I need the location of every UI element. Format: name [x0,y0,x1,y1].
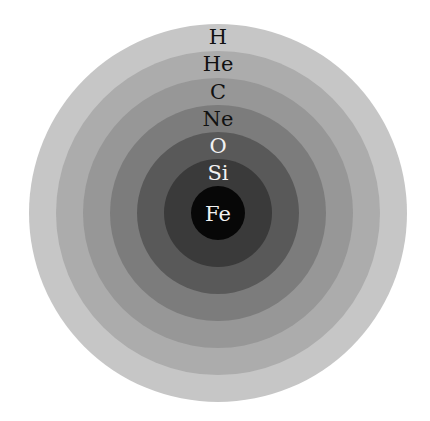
layer-label-he: He [203,52,234,76]
layer-label-c: C [210,80,226,104]
layer-label-fe: Fe [205,202,231,226]
layer-label-h: H [209,25,227,49]
stellar-layers-diagram: H He C Ne O Si Fe [0,0,430,421]
layer-label-si: Si [207,161,228,185]
layer-label-ne: Ne [203,107,234,131]
layer-label-o: O [209,134,226,158]
